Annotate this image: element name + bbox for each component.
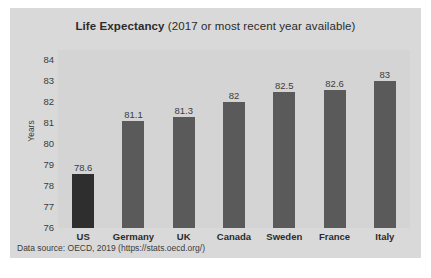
chart-title-subtitle: (2017 or most recent year available) xyxy=(165,20,356,32)
chart-title: Life Expectancy (2017 or most recent yea… xyxy=(10,20,421,32)
bar-group-italy[interactable]: 83 xyxy=(360,50,410,228)
y-axis-tick-81: 81 xyxy=(32,118,54,128)
y-axis-tick-labels: 767778798081828384 xyxy=(32,50,54,228)
x-axis-label-us: US xyxy=(58,231,108,242)
bar-value-france: 82.6 xyxy=(310,78,360,89)
y-axis-tick-82: 82 xyxy=(32,97,54,107)
bar-group-germany[interactable]: 81.1 xyxy=(108,50,158,228)
bar-us[interactable] xyxy=(72,174,94,228)
x-axis-label-canada: Canada xyxy=(209,231,259,242)
bar-group-uk[interactable]: 81.3 xyxy=(159,50,209,228)
bar-group-canada[interactable]: 82 xyxy=(209,50,259,228)
x-axis-label-germany: Germany xyxy=(108,231,158,242)
bar-france[interactable] xyxy=(324,90,346,228)
y-axis-tick-77: 77 xyxy=(32,202,54,212)
bar-germany[interactable] xyxy=(122,121,144,228)
bar-value-germany: 81.1 xyxy=(108,109,158,120)
x-axis-label-sweden: Sweden xyxy=(259,231,309,242)
bar-sweden[interactable] xyxy=(273,92,295,228)
chart-title-main: Life Expectancy xyxy=(75,20,164,32)
y-axis-tick-79: 79 xyxy=(32,160,54,170)
x-axis-label-italy: Italy xyxy=(360,231,410,242)
chart-panel: Life Expectancy (2017 or most recent yea… xyxy=(10,8,421,258)
bar-group-us[interactable]: 78.6 xyxy=(58,50,108,228)
bar-group-france[interactable]: 82.6 xyxy=(310,50,360,228)
bar-canada[interactable] xyxy=(223,102,245,228)
y-axis-tick-76: 76 xyxy=(32,223,54,233)
bar-value-uk: 81.3 xyxy=(159,105,209,116)
bar-group-sweden[interactable]: 82.5 xyxy=(259,50,309,228)
y-axis-tick-83: 83 xyxy=(32,76,54,86)
y-axis-tick-78: 78 xyxy=(32,181,54,191)
bar-value-sweden: 82.5 xyxy=(259,80,309,91)
bar-value-italy: 83 xyxy=(360,69,410,80)
x-axis-label-france: France xyxy=(310,231,360,242)
source-note: Data source: OECD, 2019 (https://stats.o… xyxy=(17,243,205,253)
y-axis-tick-84: 84 xyxy=(32,55,54,65)
bar-value-us: 78.6 xyxy=(58,162,108,173)
bar-value-canada: 82 xyxy=(209,90,259,101)
y-axis-tick-80: 80 xyxy=(32,139,54,149)
bar-italy[interactable] xyxy=(374,81,396,228)
bar-uk[interactable] xyxy=(173,117,195,228)
x-axis-label-uk: UK xyxy=(159,231,209,242)
